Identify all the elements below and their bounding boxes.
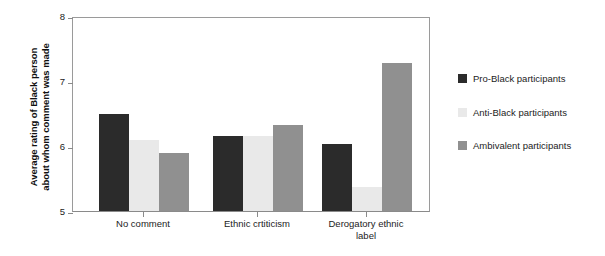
- bars-layer: [73, 18, 429, 211]
- y-axis-tick: 8: [51, 18, 73, 19]
- y-axis-tick: 6: [51, 148, 73, 149]
- bar: [129, 140, 159, 212]
- bar: [382, 63, 412, 211]
- y-tick-label: 7: [60, 76, 65, 87]
- y-axis-tick: 5: [51, 213, 73, 214]
- bar: [322, 144, 352, 211]
- legend-item: Pro-Black participants: [458, 72, 565, 84]
- bar: [352, 187, 382, 211]
- bar: [159, 153, 189, 212]
- x-axis-group-label: No comment: [78, 218, 208, 230]
- y-axis-title: Average rating of Black person about who…: [28, 12, 52, 222]
- legend-item: Anti-Black participants: [458, 106, 567, 118]
- y-tick-label: 8: [60, 11, 65, 22]
- x-axis-tick: [257, 212, 258, 217]
- y-axis-tick: 7: [51, 83, 73, 84]
- y-tick-line: [68, 213, 73, 214]
- plot-area: 5678: [72, 17, 430, 212]
- bar: [213, 136, 243, 211]
- y-tick-label: 6: [60, 141, 65, 152]
- bar: [99, 114, 129, 212]
- legend-color-swatch: [458, 74, 467, 83]
- x-axis-tick: [366, 212, 367, 217]
- bar-chart-figure: Average rating of Black person about who…: [0, 0, 605, 256]
- bar: [273, 125, 303, 211]
- legend-item-label: Anti-Black participants: [473, 107, 567, 118]
- legend-item-label: Pro-Black participants: [473, 73, 565, 84]
- y-tick-label: 5: [60, 206, 65, 217]
- bar: [243, 136, 273, 211]
- x-axis-tick: [143, 212, 144, 217]
- legend-item: Ambivalent participants: [458, 139, 571, 151]
- legend-item-label: Ambivalent participants: [473, 140, 571, 151]
- legend-color-swatch: [458, 141, 467, 150]
- legend-color-swatch: [458, 108, 467, 117]
- x-axis-group-label: Derogatory ethnic label: [301, 218, 431, 242]
